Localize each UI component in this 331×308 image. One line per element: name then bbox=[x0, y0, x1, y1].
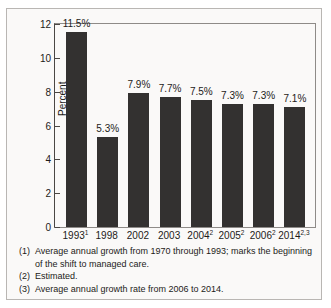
y-axis-tick-label: 8 bbox=[45, 86, 51, 99]
footnote-text: Average annual growth from 1970 through … bbox=[35, 246, 312, 269]
figure-container: 02468101211.5%5.3%7.9%7.7%7.5%7.3%7.3%7.… bbox=[6, 8, 322, 300]
y-axis-tick-label: 10 bbox=[40, 52, 51, 65]
y-axis-tick: 0 bbox=[55, 227, 60, 228]
footnote-text: Average annual growth rate from 2006 to … bbox=[35, 284, 223, 294]
bar-value-label: 7.3% bbox=[252, 90, 275, 102]
y-axis-tick-label: 0 bbox=[45, 221, 51, 234]
x-axis-tick-label: 20142,3 bbox=[274, 230, 314, 242]
y-axis-title: Percent bbox=[57, 82, 68, 116]
y-axis-tick-label: 2 bbox=[45, 187, 51, 200]
y-axis-tick-label: 12 bbox=[40, 18, 51, 31]
bar-value-label: 11.5% bbox=[63, 18, 91, 30]
bar: 11.5% bbox=[66, 32, 87, 227]
y-axis-tick: 12 bbox=[55, 24, 60, 25]
bar-value-label: 7.9% bbox=[127, 79, 150, 91]
bar: 7.1% bbox=[284, 107, 305, 227]
y-axis-tick: 10 bbox=[55, 58, 60, 59]
y-axis-tick: 4 bbox=[55, 159, 60, 160]
plot-area: 02468101211.5%5.3%7.9%7.7%7.5%7.3%7.3%7.… bbox=[54, 23, 316, 228]
bar: 5.3% bbox=[97, 137, 118, 227]
bar-value-label: 7.5% bbox=[190, 86, 213, 98]
bar-value-label: 7.1% bbox=[283, 93, 306, 105]
axes: 02468101211.5%5.3%7.9%7.7%7.5%7.3%7.3%7.… bbox=[55, 24, 315, 227]
footnote-marker: (2) bbox=[19, 270, 30, 283]
footnote-marker: (3) bbox=[19, 283, 30, 296]
bar: 7.3% bbox=[222, 104, 243, 227]
bar: 7.5% bbox=[191, 100, 212, 227]
footnote-text: Estimated. bbox=[35, 271, 78, 281]
y-axis-tick: 6 bbox=[55, 126, 60, 127]
bar: 7.7% bbox=[160, 97, 181, 227]
footnote: (1)Average annual growth from 1970 throu… bbox=[19, 245, 313, 270]
y-axis-tick-label: 6 bbox=[45, 120, 51, 133]
footnote-marker: (1) bbox=[19, 245, 30, 258]
bar-value-label: 7.7% bbox=[159, 83, 182, 95]
bar-value-label: 5.3% bbox=[96, 123, 119, 135]
y-axis-tick: 2 bbox=[55, 193, 60, 194]
footnote-list: (1)Average annual growth from 1970 throu… bbox=[19, 245, 313, 295]
bar: 7.3% bbox=[253, 104, 274, 227]
footnote: (2)Estimated. bbox=[19, 270, 313, 283]
bar-value-label: 7.3% bbox=[221, 90, 244, 102]
footnote: (3)Average annual growth rate from 2006 … bbox=[19, 283, 313, 296]
y-axis-tick-label: 4 bbox=[45, 153, 51, 166]
bar: 7.9% bbox=[128, 93, 149, 227]
